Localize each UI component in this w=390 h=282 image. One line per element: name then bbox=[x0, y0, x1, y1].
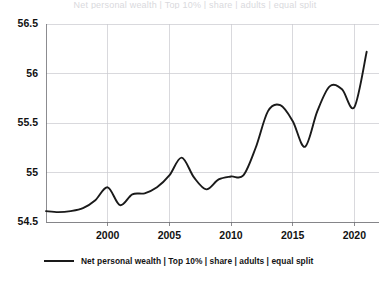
legend-label: Net personal wealth | Top 10% | share | … bbox=[81, 256, 313, 266]
y-axis-tick-label: 56 bbox=[26, 67, 38, 79]
chart-container: Net personal wealth | Top 10% | share | … bbox=[0, 0, 390, 282]
y-axis-tick-label: 56.5 bbox=[18, 17, 39, 29]
x-axis-tick-label: 2005 bbox=[158, 229, 182, 241]
line-chart-plot: 54.55555.55656.520002005201020152020 bbox=[0, 0, 390, 282]
y-axis-tick-label: 54.5 bbox=[18, 215, 39, 227]
y-axis-tick-label: 55.5 bbox=[18, 116, 39, 128]
legend-line-swatch bbox=[44, 260, 74, 262]
chart-legend: Net personal wealth | Top 10% | share | … bbox=[44, 256, 313, 266]
data-series-line bbox=[46, 52, 367, 212]
x-axis-tick-label: 2000 bbox=[96, 229, 120, 241]
y-axis-tick-label: 55 bbox=[26, 166, 38, 178]
x-axis-tick-label: 2020 bbox=[343, 229, 367, 241]
x-axis-tick-label: 2010 bbox=[219, 229, 243, 241]
x-axis-tick-label: 2015 bbox=[281, 229, 305, 241]
